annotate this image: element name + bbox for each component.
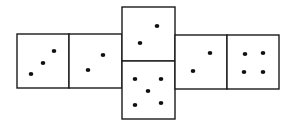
pip-dot bbox=[41, 61, 46, 65]
pip-dot bbox=[133, 103, 138, 107]
pip-dot bbox=[146, 89, 151, 93]
cube-net-diagram bbox=[0, 0, 294, 128]
pip-dot bbox=[155, 24, 160, 28]
pip-dot bbox=[138, 41, 143, 45]
face-outline bbox=[227, 35, 279, 89]
die-face-center-top bbox=[122, 7, 175, 61]
die-face-right-outer bbox=[227, 35, 279, 89]
pip-dot bbox=[261, 70, 266, 74]
die-face-right-inner bbox=[175, 35, 227, 89]
pip-dot bbox=[159, 101, 164, 105]
pip-dot bbox=[242, 70, 247, 74]
pip-dot bbox=[86, 68, 91, 72]
face-outline bbox=[175, 35, 227, 89]
pip-dot bbox=[133, 77, 138, 81]
pip-dot bbox=[191, 69, 196, 73]
die-face-left-inner bbox=[69, 34, 122, 88]
pip-dot bbox=[208, 51, 213, 55]
die-face-center-bottom bbox=[122, 61, 175, 119]
pip-dot bbox=[29, 72, 34, 76]
pip-dot bbox=[101, 53, 106, 57]
pip-dot bbox=[52, 49, 57, 53]
face-outline bbox=[69, 34, 122, 88]
pip-dot bbox=[159, 77, 164, 81]
pip-dot bbox=[261, 51, 266, 55]
die-face-left-outer bbox=[17, 34, 69, 88]
pip-dot bbox=[243, 52, 248, 56]
face-outline bbox=[122, 7, 175, 61]
